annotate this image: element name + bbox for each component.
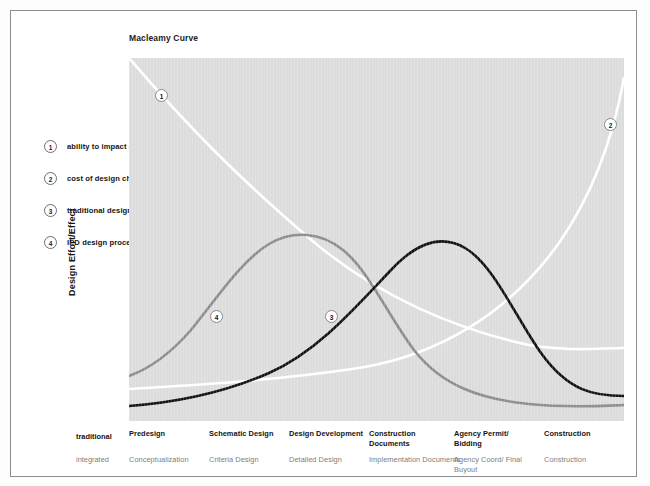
- phase-table: traditional integrated Predesign Concept…: [11, 429, 650, 486]
- figure-frame: Macleamy Curve Design Effort/Effect 1 ab…: [10, 10, 637, 477]
- plot-area: 1 2 3 4: [129, 58, 624, 421]
- phase-traditional-label: Construction: [544, 429, 628, 439]
- phase-traditional-label: Agency Permit/ Bidding: [454, 429, 538, 449]
- phase-traditional-label: Design Development: [289, 429, 373, 439]
- phase-column-construction: Construction Construction: [544, 429, 628, 439]
- curve-1-path: [129, 58, 624, 349]
- phase-integrated-label: Agency Coord/ Final Buyout: [454, 455, 546, 475]
- curve-marker-4: 4: [210, 310, 223, 323]
- phase-column-agency-permit-bidding: Agency Permit/ Bidding Agency Coord/ Fin…: [454, 429, 538, 449]
- row-label-traditional: traditional: [76, 432, 112, 441]
- phase-traditional-label: Predesign: [129, 429, 213, 439]
- phase-integrated-label: Criteria Design: [209, 455, 301, 465]
- phase-column-construction-documents: Construction Documents Implementation Do…: [369, 429, 453, 449]
- phase-column-design-development: Design Development Detailed Design: [289, 429, 373, 439]
- page-title: Macleamy Curve: [129, 33, 198, 43]
- legend-badge-3: 3: [44, 204, 57, 217]
- phase-traditional-label: Schematic Design: [209, 429, 293, 439]
- phase-integrated-label: Detailed Design: [289, 455, 381, 465]
- curve-4-path: [129, 235, 624, 407]
- phase-integrated-label: Implementation Documents: [369, 455, 461, 465]
- curves-svg: [129, 58, 624, 421]
- legend-badge-1: 1: [44, 140, 57, 153]
- curve-marker-2: 2: [604, 118, 617, 131]
- curve-marker-3: 3: [325, 310, 338, 323]
- row-label-integrated: integrated: [76, 455, 109, 464]
- phase-integrated-label: Construction: [544, 455, 636, 465]
- phase-integrated-label: Conceptualization: [129, 455, 221, 465]
- phase-traditional-label: Construction Documents: [369, 429, 453, 449]
- phase-column-schematic-design: Schematic Design Criteria Design: [209, 429, 293, 439]
- curve-3-path: [129, 241, 624, 406]
- curve-2-path: [129, 78, 624, 389]
- legend-badge-4: 4: [44, 236, 57, 249]
- figure-page: Macleamy Curve Design Effort/Effect 1 ab…: [0, 0, 650, 486]
- curve-marker-1: 1: [155, 89, 168, 102]
- phase-column-predesign: Predesign Conceptualization: [129, 429, 213, 439]
- legend-badge-2: 2: [44, 172, 57, 185]
